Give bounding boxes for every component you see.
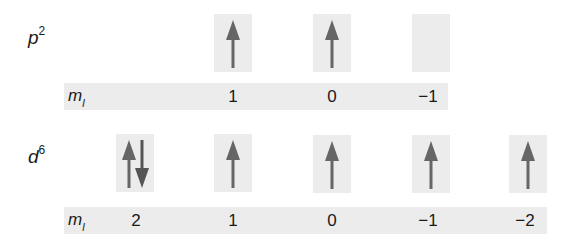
ml-value: −1 (408, 87, 448, 107)
orbital-box-d-ml-2 (116, 134, 154, 192)
ml-value: 0 (312, 87, 352, 107)
electron-count: 6 (39, 143, 46, 157)
electron-count: 2 (39, 24, 46, 38)
ml-value: 0 (312, 211, 352, 231)
spin-up-arrow-icon (509, 135, 547, 193)
spin-up-arrow-icon (313, 135, 351, 193)
ml-value: −1 (408, 211, 448, 231)
p-ml-bar: ml 1 0 −1 (64, 83, 448, 110)
ml-value: 2 (116, 211, 156, 231)
spin-up-arrow-icon (313, 14, 351, 72)
d-ml-bar: ml 2 1 0 −1 −2 (64, 207, 547, 234)
orbital-box-d-ml-neg2 (509, 135, 547, 193)
p2-config-label: p2 (28, 26, 45, 49)
orbital-box-d-ml-1 (214, 134, 252, 192)
orbital-box-d-ml-0 (313, 135, 351, 193)
d6-config-label: d6 (28, 145, 45, 168)
spin-up-arrow-icon (214, 14, 252, 72)
orbital-box-p-ml-0 (313, 14, 351, 72)
ml-value: −2 (505, 211, 545, 231)
orbital-letter: p (28, 27, 39, 48)
orbital-box-d-ml-neg1 (412, 135, 450, 193)
spin-up-arrow-icon (214, 134, 252, 192)
ml-value: 1 (213, 211, 253, 231)
ml-label: ml (68, 86, 85, 107)
orbital-letter: d (28, 146, 39, 167)
orbital-box-p-ml-neg1 (412, 14, 450, 72)
ml-value: 1 (213, 87, 253, 107)
ml-label: ml (68, 210, 85, 231)
orbital-box-p-ml-1 (214, 14, 252, 72)
spin-up-arrow-icon (412, 135, 450, 193)
spin-pair-arrows-icon (116, 134, 154, 192)
